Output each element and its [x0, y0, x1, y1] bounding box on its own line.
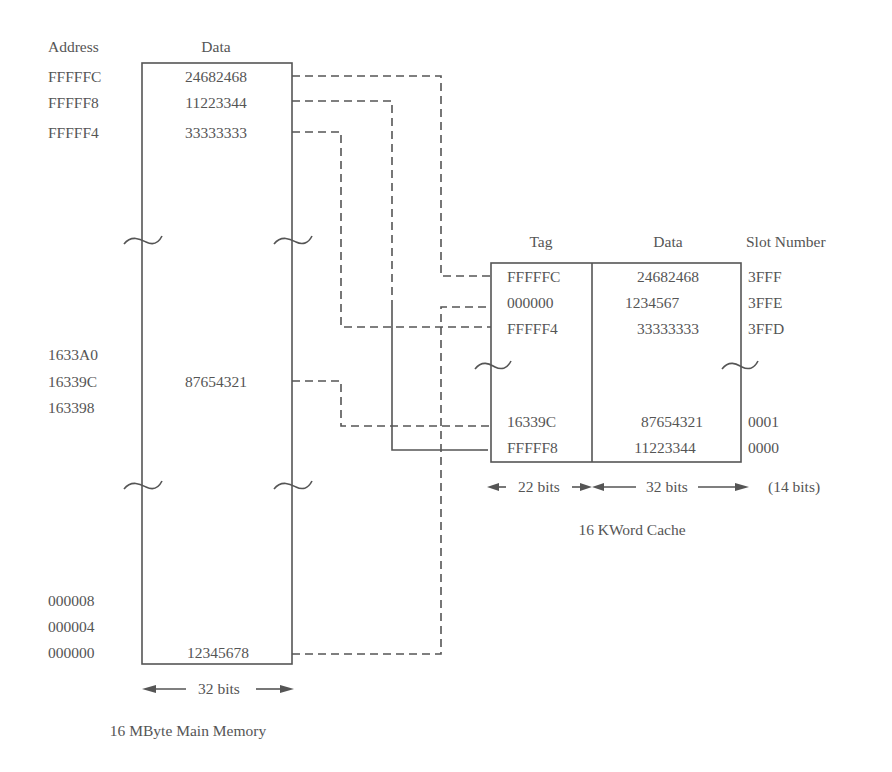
memory-address: FFFFFC: [48, 68, 101, 85]
main-memory: Address Data FFFFFC 24682468 FFFFF8 1122…: [48, 38, 312, 739]
memory-value: 33333333: [185, 124, 247, 141]
cache-tag-header: Tag: [529, 233, 552, 250]
memory-row: 000000 12345678: [48, 644, 249, 661]
break-mark-icon: [124, 481, 162, 489]
memory-value: 24682468: [185, 68, 247, 85]
connector-line: [392, 300, 480, 450]
memory-row: 1633A0: [48, 346, 98, 363]
break-mark-icon: [274, 236, 312, 244]
memory-value: 87654321: [185, 373, 247, 390]
data-width-label: 32 bits: [646, 478, 688, 495]
cache-box: [491, 263, 741, 462]
cache-value: 87654321: [641, 413, 703, 430]
memory-width-label: 32 bits: [198, 680, 240, 697]
memory-address: FFFFF8: [48, 94, 99, 111]
memory-box: [142, 63, 292, 664]
cache-row: 16339C 87654321 0001: [507, 413, 779, 430]
break-mark-icon: [124, 236, 162, 244]
cache-slot: 0000: [748, 439, 779, 456]
cache-row: FFFFF4 33333333 3FFD: [507, 320, 784, 337]
memory-address: 1633A0: [48, 346, 98, 363]
memory-row: 163398: [48, 399, 95, 416]
connector-line: [292, 101, 392, 300]
arrow-right-icon: [580, 483, 592, 491]
break-mark-icon: [475, 361, 511, 369]
cache-value: 33333333: [637, 320, 699, 337]
cache-slot: 0001: [748, 413, 779, 430]
cache-tag: 16339C: [507, 413, 556, 430]
cache-slot-header: Slot Number: [746, 233, 826, 250]
tag-width-label: 22 bits: [518, 478, 560, 495]
memory-address: 000004: [48, 618, 95, 635]
cache-mapping-diagram: Address Data FFFFFC 24682468 FFFFF8 1122…: [0, 0, 892, 772]
cache-tag: FFFFF4: [507, 320, 558, 337]
memory-row: FFFFFC 24682468: [48, 68, 247, 85]
cache-slot: 3FFE: [748, 294, 782, 311]
memory-value: 11223344: [185, 94, 247, 111]
cache-tag: 000000: [507, 294, 554, 311]
memory-data-header: Data: [201, 38, 230, 55]
break-mark-icon: [274, 481, 312, 489]
memory-address: 000008: [48, 592, 95, 609]
cache: Tag Data Slot Number FFFFFC 24682468 3FF…: [475, 233, 826, 538]
memory-caption: 16 MByte Main Memory: [110, 722, 267, 739]
cache-slot: 3FFD: [748, 320, 784, 337]
cache-value: 1234567: [625, 294, 680, 311]
cache-data-header: Data: [653, 233, 682, 250]
memory-address: FFFFF4: [48, 124, 99, 141]
cache-row: FFFFF8 11223344 0000: [507, 439, 779, 456]
cache-width-indicators: 22 bits 32 bits (14 bits): [487, 478, 820, 496]
cache-caption: 16 KWord Cache: [578, 521, 685, 538]
memory-row: FFFFF8 11223344: [48, 94, 247, 111]
memory-width-indicator: 32 bits: [142, 680, 294, 697]
cache-value: 11223344: [634, 439, 696, 456]
memory-value: 12345678: [187, 644, 249, 661]
arrow-left-icon: [142, 685, 156, 693]
memory-address-header: Address: [48, 38, 99, 55]
arrow-right-icon: [280, 685, 294, 693]
memory-address: 16339C: [48, 373, 97, 390]
memory-row: 000008: [48, 592, 95, 609]
memory-row: FFFFF4 33333333: [48, 124, 247, 141]
cache-tag: FFFFF8: [507, 439, 558, 456]
slot-width-label: (14 bits): [768, 478, 820, 496]
mapping-connectors: [292, 76, 491, 654]
memory-address: 163398: [48, 399, 95, 416]
cache-slot: 3FFF: [748, 268, 782, 285]
break-mark-icon: [722, 361, 758, 369]
memory-row: 16339C 87654321: [48, 373, 247, 390]
memory-address: 000000: [48, 644, 95, 661]
cache-value: 24682468: [637, 268, 699, 285]
memory-row: 000004: [48, 618, 95, 635]
cache-tag: FFFFFC: [507, 268, 560, 285]
arrow-right-icon: [735, 483, 749, 491]
